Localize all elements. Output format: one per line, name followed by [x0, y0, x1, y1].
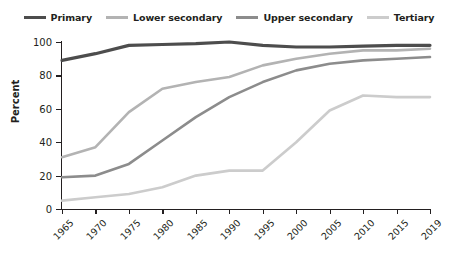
- legend-swatch-icon: [106, 16, 128, 19]
- x-tick-mark: [196, 209, 197, 214]
- x-tick-mark: [129, 209, 130, 214]
- x-tick-mark: [296, 209, 297, 214]
- legend-swatch-icon: [236, 16, 258, 19]
- x-tick-mark: [229, 209, 230, 214]
- y-tick-label: 80: [26, 70, 52, 81]
- x-tick-mark: [162, 209, 163, 214]
- series-line-lower-secondary: [62, 49, 430, 158]
- legend-item-primary[interactable]: Primary: [24, 12, 92, 23]
- legend-item-tertiary[interactable]: Tertiary: [367, 12, 435, 23]
- y-tick-label: 40: [26, 137, 52, 148]
- x-tick-mark: [95, 209, 96, 214]
- legend-swatch-icon: [24, 16, 46, 19]
- legend-label: Tertiary: [394, 12, 435, 23]
- y-tick-label: 20: [26, 170, 52, 181]
- x-tick-mark: [430, 209, 431, 214]
- x-tick-mark: [330, 209, 331, 214]
- line-chart: PrimaryLower secondaryUpper secondaryTer…: [0, 0, 458, 257]
- y-axis-title: Percent: [10, 80, 21, 124]
- y-tick-label: 60: [26, 103, 52, 114]
- plot-area: [62, 42, 430, 209]
- legend-label: Upper secondary: [263, 12, 352, 23]
- series-line-tertiary: [62, 95, 430, 200]
- y-tick-label: 100: [26, 37, 52, 48]
- legend-item-upper-secondary[interactable]: Upper secondary: [236, 12, 352, 23]
- series-line-upper-secondary: [62, 57, 430, 177]
- series-lines: [62, 42, 430, 209]
- legend-item-lower-secondary[interactable]: Lower secondary: [106, 12, 222, 23]
- chart-legend: PrimaryLower secondaryUpper secondaryTer…: [0, 12, 458, 23]
- legend-label: Primary: [51, 12, 92, 23]
- x-tick-mark: [397, 209, 398, 214]
- x-tick-mark: [62, 209, 63, 214]
- x-tick-mark: [263, 209, 264, 214]
- legend-swatch-icon: [367, 16, 389, 19]
- x-tick-mark: [363, 209, 364, 214]
- y-tick-label: 0: [26, 204, 52, 215]
- legend-label: Lower secondary: [133, 12, 222, 23]
